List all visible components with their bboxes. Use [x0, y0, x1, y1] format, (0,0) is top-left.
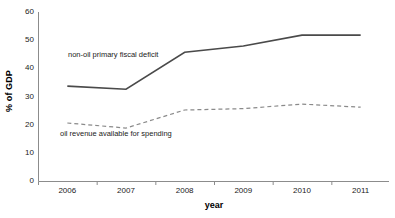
series-annotation-deficit: non-oil primary fiscal deficit: [68, 50, 158, 59]
x-tick-label: 2009: [214, 186, 273, 196]
x-tick-label: 2006: [38, 186, 97, 196]
plot-area: [38, 8, 390, 185]
series-line-deficit: [67, 35, 360, 89]
x-tick-label: 2008: [155, 186, 214, 196]
series-line-oil-revenue: [67, 104, 360, 128]
x-axis-tick-labels: 200620072008200920102011: [38, 186, 390, 200]
x-tick-label: 2010: [273, 186, 332, 196]
plot-svg: [38, 8, 390, 185]
y-tick-label: 40: [18, 64, 34, 72]
x-tick-label: 2011: [331, 186, 390, 196]
y-tick-label: 30: [18, 93, 34, 101]
y-axis-title-label: % of GDP: [4, 70, 14, 112]
y-axis-title: % of GDP: [0, 0, 18, 181]
y-tick-label: 0: [18, 177, 34, 185]
axis-lines: [38, 12, 390, 185]
series-annotation-oil: oil revenue available for spending: [60, 129, 172, 138]
y-tick-label: 50: [18, 36, 34, 44]
y-axis-tick-labels: 0102030405060: [18, 0, 34, 218]
x-axis-title: year: [38, 200, 390, 210]
line-chart: % of GDP 0102030405060 20062007200820092…: [0, 0, 395, 218]
y-tick-label: 60: [18, 8, 34, 16]
y-tick-label: 10: [18, 149, 34, 157]
y-tick-label: 20: [18, 121, 34, 129]
x-tick-label: 2007: [97, 186, 156, 196]
